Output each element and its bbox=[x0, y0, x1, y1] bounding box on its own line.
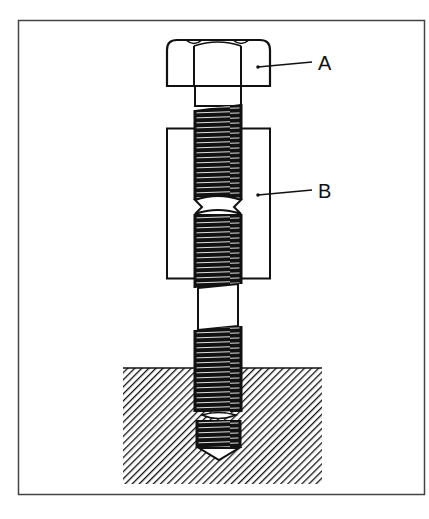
bolt-hex-head bbox=[167, 40, 270, 86]
label-b: B bbox=[318, 180, 331, 202]
bolt-thread-upper bbox=[195, 104, 241, 200]
label-a: A bbox=[318, 52, 332, 74]
bolt-shank-upper bbox=[195, 86, 241, 106]
bolt-shank-middle bbox=[198, 284, 238, 330]
tapped-hole-thread bbox=[197, 420, 240, 448]
bolt-thread-lower bbox=[195, 326, 241, 412]
bolt-diagram: A B bbox=[0, 0, 429, 519]
bolt-thread-middle bbox=[195, 214, 241, 288]
